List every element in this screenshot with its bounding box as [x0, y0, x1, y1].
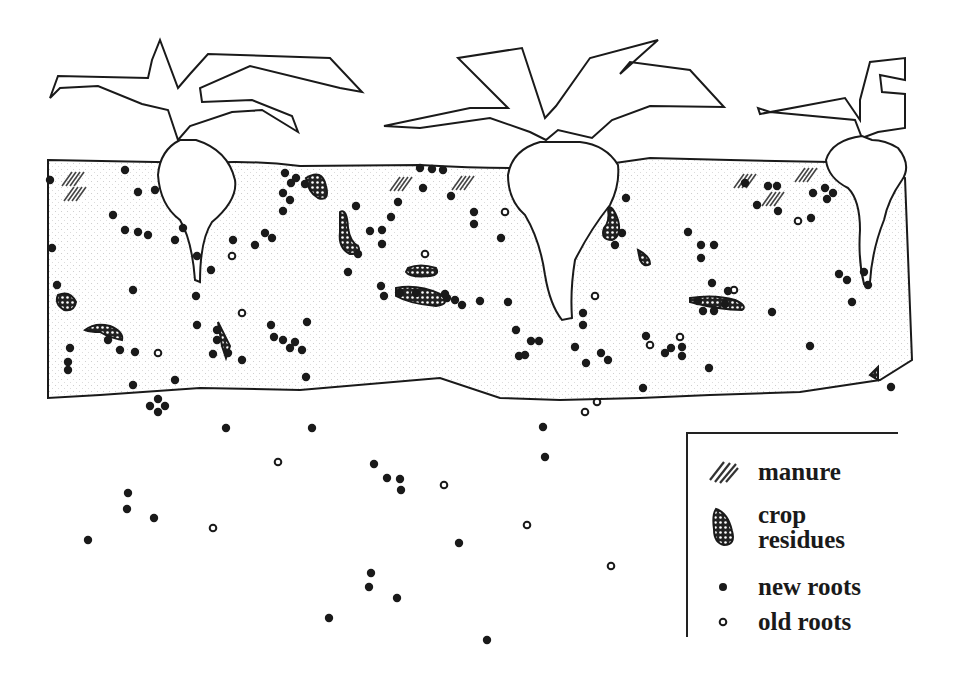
legend: manure crop residues new roots old roots — [686, 432, 898, 637]
new-root-dot — [367, 569, 375, 577]
new-root-dot — [604, 356, 612, 364]
legend-item-new-roots: new roots — [688, 574, 861, 599]
old-root-dot — [229, 253, 236, 260]
new-root-dot — [354, 250, 362, 258]
crop-residue-icon — [708, 505, 738, 549]
new-root-dot — [129, 381, 137, 389]
legend-label-old-roots: old roots — [758, 609, 851, 634]
old-root-dot — [155, 350, 162, 357]
new-root-dot — [639, 384, 647, 392]
new-root-dot — [298, 346, 306, 354]
new-root-dot — [809, 189, 817, 197]
new-root-dot — [104, 336, 112, 344]
new-root-dot — [483, 636, 491, 644]
new-root-dot — [134, 188, 142, 196]
new-root-dot — [458, 301, 466, 309]
new-root-dot — [213, 336, 221, 344]
new-root-dot — [724, 287, 732, 295]
new-root-dot — [451, 296, 459, 304]
new-root-dot — [397, 486, 405, 494]
new-root-dot — [694, 297, 702, 305]
new-root-dot — [582, 359, 590, 367]
new-root-dot — [618, 229, 626, 237]
new-root-dot — [447, 192, 455, 200]
new-root-dot — [764, 182, 772, 190]
beet-leaves-2 — [384, 40, 724, 140]
new-root-dot — [154, 408, 162, 416]
legend-item-old-roots: old roots — [688, 609, 851, 634]
new-root-dot — [708, 279, 716, 287]
new-root-dot — [821, 184, 829, 192]
new-root-dot — [344, 268, 352, 276]
new-root-dot — [261, 229, 269, 237]
open-dot-icon — [717, 616, 729, 628]
new-root-dot — [325, 614, 333, 622]
new-root-dot — [807, 214, 815, 222]
new-root-dot — [697, 254, 705, 262]
new-root-dot — [121, 226, 129, 234]
new-root-dot — [116, 346, 124, 354]
old-root-dot — [275, 459, 282, 466]
legend-label-new-roots: new roots — [758, 574, 861, 599]
new-root-dot — [848, 298, 856, 306]
new-root-dot — [301, 180, 309, 188]
old-root-dot — [594, 399, 601, 406]
old-root-dot — [608, 563, 615, 570]
new-root-dot — [396, 289, 404, 297]
new-root-dot — [512, 326, 520, 334]
new-root-dot — [207, 266, 215, 274]
new-root-dot — [292, 174, 300, 182]
legend-item-manure: manure — [688, 458, 841, 484]
new-root-dot — [642, 332, 650, 340]
new-root-dot — [455, 539, 463, 547]
new-root-dot — [710, 307, 718, 315]
new-root-dot — [705, 364, 713, 372]
new-root-dot — [370, 460, 378, 468]
new-root-dot — [279, 336, 287, 344]
new-root-dot — [281, 169, 289, 177]
new-root-dot — [579, 321, 587, 329]
new-root-dot — [270, 333, 278, 341]
new-root-dot — [64, 366, 72, 374]
new-root-dot — [823, 195, 831, 203]
new-root-dot — [302, 373, 310, 381]
new-root-dot — [238, 356, 246, 364]
new-root-dot — [213, 326, 221, 334]
manure-hatch-icon — [706, 458, 740, 484]
new-root-dot — [829, 189, 837, 197]
new-root-dot — [64, 358, 72, 366]
new-root-dot — [887, 383, 895, 391]
new-root-dot — [109, 211, 117, 219]
new-root-dot — [291, 338, 299, 346]
new-root-dot — [439, 166, 447, 174]
new-root-dot — [710, 241, 718, 249]
old-root-dot — [647, 342, 654, 349]
new-root-dot — [835, 270, 843, 278]
new-root-dot — [721, 300, 729, 308]
new-root-dot — [279, 189, 287, 197]
new-root-dot — [470, 220, 478, 228]
legend-item-crop-residues: crop residues — [688, 502, 845, 552]
new-root-dot — [124, 489, 132, 497]
old-root-dot — [582, 409, 589, 416]
new-root-dot — [470, 208, 478, 216]
legend-label-manure: manure — [758, 459, 841, 484]
new-root-dot — [387, 213, 395, 221]
new-root-dot — [497, 234, 505, 242]
new-root-dot — [597, 349, 605, 357]
new-root-dot — [279, 207, 287, 215]
old-root-dot — [795, 218, 802, 225]
old-root-dot — [441, 482, 448, 489]
new-root-dot — [267, 321, 275, 329]
new-root-dot — [131, 348, 139, 356]
new-root-dot — [171, 236, 179, 244]
new-root-dot — [378, 226, 386, 234]
new-root-dot — [134, 228, 142, 236]
new-root-dot — [571, 343, 579, 351]
new-root-dot — [539, 423, 547, 431]
new-root-dot — [144, 231, 152, 239]
new-root-dot — [377, 282, 385, 290]
old-root-dot — [524, 522, 531, 529]
new-root-dot — [66, 344, 74, 352]
new-root-dot — [121, 166, 129, 174]
